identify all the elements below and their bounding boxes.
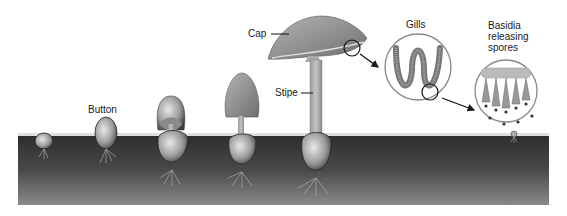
mushroom-lifecycle-diagram: Cap Stipe Button Gills Basidia releasing…	[0, 0, 567, 216]
arrow-to-basidia	[442, 98, 474, 110]
arrow-to-gills	[360, 54, 378, 67]
inset-gills	[385, 34, 451, 100]
cap-label: Cap	[248, 28, 266, 39]
button-label: Button	[88, 104, 117, 115]
inset-basidia	[475, 60, 537, 126]
stipe-label: Stipe	[275, 87, 298, 98]
soil-block	[18, 136, 549, 205]
basidia-label: Basidia releasing spores	[488, 20, 548, 53]
gills-label: Gills	[406, 19, 425, 30]
diagram-canvas	[0, 0, 567, 216]
